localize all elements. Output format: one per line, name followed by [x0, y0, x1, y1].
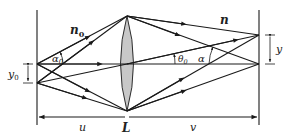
label-n: n: [220, 13, 229, 27]
label-v: v: [190, 121, 197, 134]
label-y0: y0: [7, 68, 19, 82]
ray-img-top-a-arrow: [127, 16, 184, 24]
label-n0: n0: [70, 23, 85, 39]
label-L: L: [121, 121, 130, 135]
label-u: u: [79, 121, 86, 134]
ray-img-top-b-arrow: [127, 16, 178, 35]
label-y: y: [275, 43, 283, 56]
optics-diagram: n0 n α0 θ0 α y0 y u L v: [0, 0, 291, 135]
label-alpha: α: [198, 53, 205, 64]
theta0-arc: [174, 54, 175, 64]
